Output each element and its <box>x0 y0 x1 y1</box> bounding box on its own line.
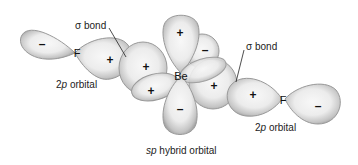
label-p-orbital-left: 2p orbital <box>56 79 97 90</box>
label-p-orbital-right-suffix: orbital <box>266 122 296 133</box>
sign-be-top: + <box>176 26 183 40</box>
left-f-outer-lobe <box>20 30 75 59</box>
sign-left-f-inner: + <box>106 53 113 67</box>
label-sigma-bond-left: σ bond <box>75 20 106 31</box>
sign-be-lower-left: + <box>147 84 154 98</box>
sign-be-left-hybrid: + <box>142 60 149 74</box>
label-sp-hybrid-italic: sp <box>146 145 157 156</box>
atom-left-fluorine: F <box>74 47 81 59</box>
sign-be-bottom: – <box>177 102 184 116</box>
sign-left-f-outer: – <box>39 37 46 51</box>
sign-be-top-right: – <box>202 43 209 57</box>
label-sp-hybrid-suffix: hybrid orbital <box>157 145 217 156</box>
label-sigma-bond-right: σ bond <box>246 41 277 52</box>
right-sigma-leader-line <box>236 50 244 82</box>
right-f-outer-lobe <box>285 84 340 124</box>
sign-right-f-inner: + <box>249 88 256 102</box>
atom-beryllium: Be <box>174 70 187 82</box>
label-sp-hybrid-orbital: sp hybrid orbital <box>146 145 217 156</box>
label-p-orbital-left-suffix: orbital <box>67 79 97 90</box>
label-p-orbital-right: 2p orbital <box>255 122 296 133</box>
sign-be-right-hybrid: + <box>210 79 217 93</box>
atom-right-fluorine: F <box>280 94 287 106</box>
sign-right-f-outer: – <box>315 99 322 113</box>
beryllium-fluoride-orbital-diagram: – + + + + – + – + – F Be F σ bond σ bond… <box>0 0 358 165</box>
